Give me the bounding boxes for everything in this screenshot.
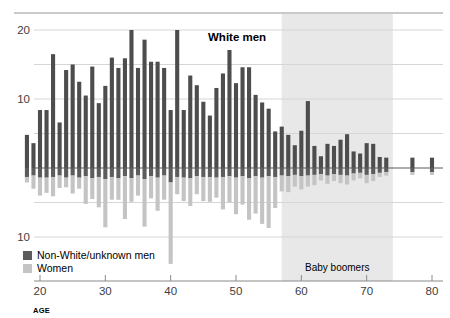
bar-women (260, 178, 264, 224)
legend-item-women: Women (23, 262, 155, 274)
bar-nonwhite-men (58, 168, 62, 176)
bar-nonwhite-men (358, 168, 362, 173)
bar-nonwhite-men (97, 168, 101, 177)
bar-white-men (286, 135, 290, 168)
x-tick-label-70: 70 (360, 285, 373, 297)
bar-nonwhite-men (306, 168, 310, 176)
y-tick-label-up-10: 10 (17, 93, 30, 105)
bar-white-men (136, 68, 140, 168)
bar-nonwhite-men (430, 168, 434, 172)
bar-nonwhite-men (332, 168, 336, 174)
bar-white-men (312, 146, 316, 168)
bar-white-men (410, 158, 414, 168)
bar-women (182, 178, 186, 201)
bar-white-men (352, 151, 356, 168)
bar-nonwhite-men (273, 168, 277, 177)
bar-white-men (188, 76, 192, 168)
x-tick-label-30: 30 (99, 285, 112, 297)
bar-nonwhite-men (267, 168, 271, 176)
bar-women (110, 177, 114, 200)
bar-nonwhite-men (188, 168, 192, 178)
bar-nonwhite-men (175, 168, 179, 177)
bar-women (410, 172, 414, 175)
bar-nonwhite-men (384, 168, 388, 172)
bar-nonwhite-men (352, 168, 356, 174)
y-tick-label-up-20: 20 (17, 24, 30, 36)
bar-women (149, 176, 153, 198)
bar-women (286, 176, 290, 192)
bar-white-men (44, 110, 48, 168)
bar-women (90, 178, 94, 199)
bar-nonwhite-men (378, 168, 382, 173)
series-title-text: White men (208, 31, 266, 43)
bar-nonwhite-men (208, 168, 212, 177)
bar-women (116, 178, 120, 199)
bar-women (378, 173, 382, 177)
bar-women (77, 178, 81, 189)
bar-white-men (293, 145, 297, 168)
bar-nonwhite-men (345, 168, 349, 176)
bar-nonwhite-men (254, 168, 258, 176)
bar-women (384, 172, 388, 175)
bar-nonwhite-men (325, 168, 329, 176)
bar-nonwhite-men (201, 168, 205, 177)
bar-nonwhite-men (286, 168, 290, 176)
band-rect (282, 14, 393, 281)
bar-women (234, 178, 238, 215)
bar-nonwhite-men (103, 168, 107, 179)
bar-nonwhite-men (77, 168, 81, 178)
bar-white-men (221, 73, 225, 168)
bar-white-men (103, 86, 107, 168)
bar-nonwhite-men (312, 168, 316, 175)
bar-white-men (38, 110, 42, 168)
bar-women (352, 174, 356, 181)
bar-women (306, 176, 310, 187)
bar-nonwhite-men (410, 168, 414, 172)
bar-women (195, 176, 199, 194)
bar-white-men (156, 62, 160, 168)
bar-white-men (149, 62, 153, 168)
band-annotation-label: Baby boomers (305, 257, 369, 275)
legend-label-nonwhite-men: Non-White/unknown men (37, 249, 155, 261)
bar-nonwhite-men (64, 168, 68, 178)
bar-women (221, 177, 225, 209)
bar-women (293, 175, 297, 187)
bar-white-men (273, 131, 277, 168)
bar-women (430, 172, 434, 175)
bar-women (58, 176, 62, 188)
bar-women (84, 176, 88, 204)
bar-white-men (195, 85, 199, 168)
bar-women (208, 177, 212, 202)
bar-white-men (201, 102, 205, 168)
bar-women (247, 178, 251, 219)
bar-nonwhite-men (142, 168, 146, 179)
bar-women (280, 176, 284, 192)
bar-nonwhite-men (51, 168, 55, 177)
bar-women (175, 177, 179, 194)
bar-nonwhite-men (299, 168, 303, 176)
bar-nonwhite-men (84, 168, 88, 176)
bar-women (142, 179, 146, 227)
bar-nonwhite-men (90, 168, 94, 178)
bar-women (103, 179, 107, 227)
bar-nonwhite-men (319, 168, 323, 174)
bar-white-men (169, 110, 173, 168)
bar-white-men (332, 146, 336, 168)
bar-nonwhite-men (182, 168, 186, 178)
bar-nonwhite-men (227, 168, 231, 176)
bar-white-men (267, 109, 271, 168)
bar-white-men (430, 158, 434, 168)
bar-nonwhite-men (169, 168, 173, 182)
x-tick-label-40: 40 (164, 285, 177, 297)
bar-white-men (208, 116, 212, 168)
x-axis-title: AGE (33, 299, 50, 317)
legend-swatch-women (23, 264, 32, 273)
bar-nonwhite-men (280, 168, 284, 176)
x-tick-label-60: 60 (295, 285, 308, 297)
bar-white-men (319, 156, 323, 168)
bar-nonwhite-men (25, 168, 29, 177)
bar-nonwhite-men (38, 168, 42, 178)
bar-women (312, 175, 316, 185)
bar-nonwhite-men (149, 168, 153, 176)
bar-white-men (84, 96, 88, 168)
